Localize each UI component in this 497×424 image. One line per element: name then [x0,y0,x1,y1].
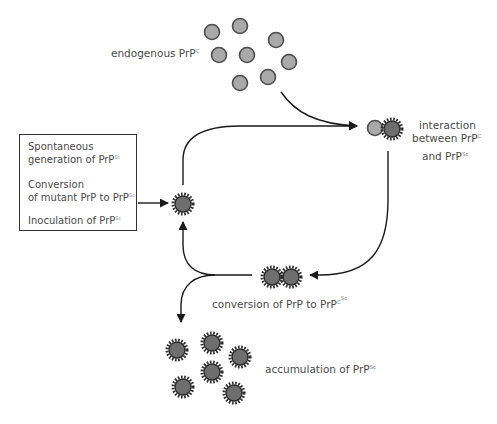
prpsc-molecule-icon [202,362,222,382]
prpc-molecule-icon [205,25,220,40]
interaction-label-line3: and PrPSc [422,150,468,163]
seed-to-interaction-arrow [183,126,357,185]
endogenous-prpc-cluster [205,19,297,91]
prpsc-molecule-icon [224,383,244,403]
prpsc-molecule-icon [281,267,301,287]
prpsc-molecule-icon [382,119,402,139]
prpsc-origin-box: Spontaneous generation of PrPSc Conversi… [19,134,137,231]
prpc-molecule-icon [240,48,255,63]
interaction-to-conversion-arrow [310,151,388,275]
prpsc-molecule-icon [167,340,187,360]
seed-prpsc-molecule-icon [173,194,193,214]
prpc-molecule-icon [212,48,227,63]
prpc-molecule-icon [261,70,276,85]
endogenous-to-interaction-arrow [281,92,357,126]
conversion-to-accumulation-arrow [181,275,215,322]
interaction-label-line1: interaction [419,119,476,132]
prpsc-molecule-icon [173,377,193,397]
prpc-molecule-icon [233,76,248,91]
prpsc-molecule-icon [262,267,282,287]
origin-conversion-line2: of mutant PrP to PrPSc [28,191,135,204]
prpsc-molecule-icon [202,333,222,353]
prpc-molecule-icon [233,19,248,34]
prpsc-molecule-icon [230,347,250,367]
origin-spontaneous-line2: generation of PrPSc [28,153,120,166]
origin-inoculation-line: Inoculation of PrPSc [28,214,121,227]
interaction-pair [368,119,403,139]
origin-spontaneous-line1: Spontaneous [28,140,93,153]
prpc-molecule-icon [368,121,383,136]
accumulation-label: accumulation of PrPSc [265,363,376,376]
prpc-molecule-icon [282,55,297,70]
conversion-to-seed-arrow [183,222,252,275]
accumulated-prpsc-cluster [167,333,250,403]
endogenous-prpc-label: endogenous PrPC [111,47,200,60]
interaction-label-line2: between PrPC [412,132,481,145]
origin-conversion-line1: Conversion [28,178,84,191]
conversion-pair [262,267,301,287]
conversion-label: conversion of PrP to PrPCSc [212,298,347,311]
prpc-molecule-icon [269,33,284,48]
